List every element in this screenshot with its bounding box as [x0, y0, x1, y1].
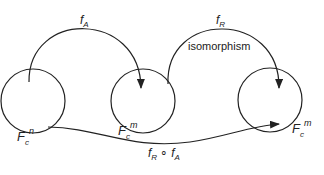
- label-Fcm-1: Fcm: [118, 120, 138, 141]
- label-fA: fA: [80, 13, 89, 29]
- circle-Fcn: [1, 69, 65, 133]
- label-isomorphism: isomorphism: [188, 40, 250, 52]
- label-fR-compose-fA: fR∘fA: [148, 146, 180, 162]
- arrow-fR: [168, 29, 279, 88]
- label-fR: fR: [216, 13, 225, 29]
- label-Fcn: Fcn: [17, 126, 34, 147]
- label-Fcm-2: Fcm: [292, 118, 312, 139]
- mapping-diagram: fA fR isomorphism fR∘fA Fcn Fcm Fcm: [0, 0, 324, 175]
- arrow-fR-compose-fA: [48, 124, 279, 144]
- arrow-fA: [29, 29, 141, 88]
